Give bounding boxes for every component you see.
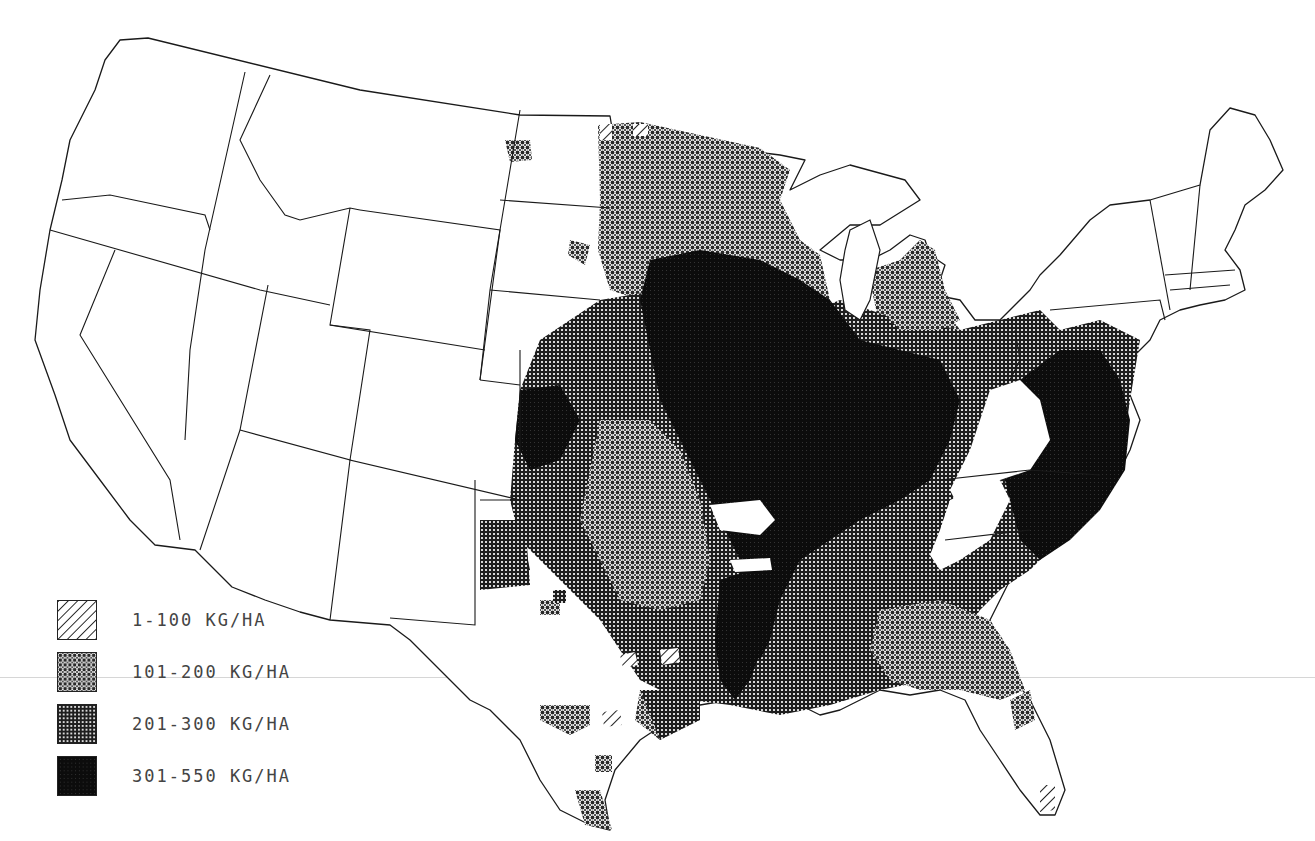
dense-grid-swatch-icon: [57, 704, 97, 744]
legend-item-101-200: 101-200 KG/HA: [57, 652, 357, 696]
legend-item-201-300: 201-300 KG/HA: [57, 704, 357, 748]
legend-label: 201-300 KG/HA: [132, 714, 291, 734]
legend-label: 1-100 KG/HA: [132, 610, 267, 630]
legend-item-301-550: 301-550 KG/HA: [57, 756, 357, 800]
solid-black-swatch-icon: [57, 756, 97, 796]
legend-label: 101-200 KG/HA: [132, 662, 291, 682]
diagonal-hatch-swatch-icon: [57, 600, 97, 640]
crosshatch-swatch-icon: [57, 652, 97, 692]
legend-item-1-100: 1-100 KG/HA: [57, 600, 357, 644]
legend-label: 301-550 KG/HA: [132, 766, 291, 786]
